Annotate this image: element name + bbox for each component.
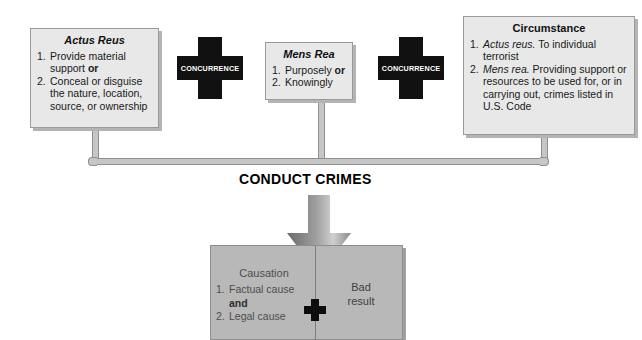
- box-actus-reus: Actus Reus 1. Provide material support o…: [30, 28, 159, 128]
- bad-result-line-1: Bad: [322, 280, 400, 294]
- list-item-text: Factual cause: [229, 283, 294, 297]
- list-item-number: 2.: [470, 63, 483, 113]
- concurrence-label-1: CONCURRENCE: [177, 56, 243, 80]
- list-item-text: Conceal or disguise the nature, location…: [50, 75, 152, 112]
- result-box-divider: [315, 246, 316, 340]
- bad-result-line-2: result: [322, 294, 400, 308]
- connector-bus-bar: [92, 158, 542, 165]
- list-item-number: 2.: [272, 76, 285, 88]
- box-circumstance-list: 1. Actus reus. To individual terrorist 2…: [470, 38, 628, 112]
- list-item-number: 2.: [216, 310, 229, 324]
- list-item: 1. Actus reus. To individual terrorist: [470, 38, 628, 63]
- box-mens-rea-title: Mens Rea: [272, 48, 346, 61]
- list-item-text: Legal cause: [229, 310, 286, 324]
- list-item: 1. Purposely or: [272, 64, 346, 76]
- list-item-text: Provide material support or: [50, 50, 152, 75]
- box-circumstance: Circumstance 1. Actus reus. To individua…: [463, 16, 635, 135]
- box-actus-reus-title: Actus Reus: [37, 34, 152, 47]
- connector-stem-mens-rea: [318, 100, 325, 164]
- box-circumstance-title: Circumstance: [470, 22, 628, 35]
- box-mens-rea: Mens Rea 1. Purposely or 2. Knowingly: [265, 42, 353, 100]
- list-item: 1. Factual cause: [216, 283, 312, 297]
- list-item-text: Mens rea. Providing support or resources…: [483, 63, 628, 113]
- concurrence-cross-1: CONCURRENCE: [177, 37, 243, 99]
- list-item-text: Knowingly: [285, 76, 346, 88]
- plus-horizontal-bar: [304, 306, 326, 314]
- list-item: 1. Provide material support or: [37, 50, 152, 75]
- diagram-canvas: Actus Reus 1. Provide material support o…: [0, 0, 642, 340]
- list-item: 2. Legal cause: [216, 310, 312, 324]
- list-item-number: 2.: [37, 75, 50, 112]
- list-item-text: Actus reus. To individual terrorist: [483, 38, 628, 63]
- result-causation-column: Causation 1. Factual cause and 2. Legal …: [216, 266, 312, 324]
- concurrence-label-2: CONCURRENCE: [378, 56, 444, 80]
- plus-sign-icon: [304, 299, 326, 321]
- list-item: 2. Knowingly: [272, 76, 346, 88]
- causation-title: Causation: [216, 266, 312, 280]
- list-item-text: Purposely or: [285, 64, 346, 76]
- concurrence-cross-2: CONCURRENCE: [378, 37, 444, 99]
- list-item: 2. Mens rea. Providing support or resour…: [470, 63, 628, 113]
- list-item: 2. Conceal or disguise the nature, locat…: [37, 75, 152, 112]
- causation-conjunction: and: [216, 297, 312, 311]
- result-bad-result-column: Bad result: [322, 280, 400, 308]
- list-item-number: 1.: [470, 38, 483, 63]
- page-title: CONDUCT CRIMES: [239, 171, 372, 187]
- connector-bus-cap-left: [88, 157, 97, 166]
- causation-list: 1. Factual cause and 2. Legal cause: [216, 283, 312, 324]
- box-mens-rea-list: 1. Purposely or 2. Knowingly: [272, 64, 346, 89]
- list-item-number: 1.: [272, 64, 285, 76]
- box-actus-reus-list: 1. Provide material support or 2. Concea…: [37, 50, 152, 112]
- connector-bus-cap-right: [540, 157, 549, 166]
- list-item-number: 1.: [37, 50, 50, 75]
- list-item-number: 1.: [216, 283, 229, 297]
